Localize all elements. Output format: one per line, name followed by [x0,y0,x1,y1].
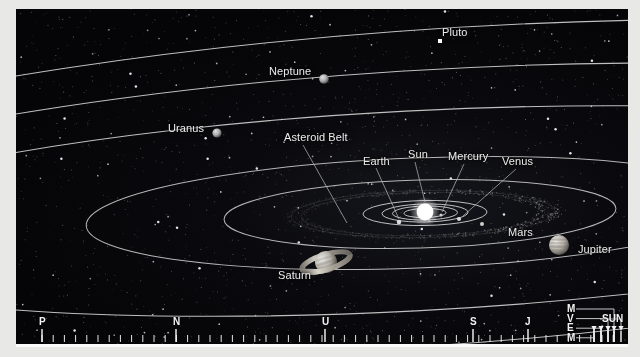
body-jupiter [549,235,569,255]
body-sun [417,204,434,221]
body-neptune [319,74,329,84]
scale-label-sun: SUN [602,314,623,324]
scale-inner-arrow-3 [611,326,616,331]
scale-label-p: P [39,317,46,327]
label-neptune: Neptune [269,66,311,77]
label-saturn: Saturn [278,270,311,281]
scale-label-u: U [322,317,329,327]
label-pluto: Pluto [442,27,468,38]
body-venus [457,217,461,221]
scale-label-j: J [525,317,531,327]
leader-sun [415,162,425,202]
label-mercury: Mercury [448,151,488,162]
scale-label-n: N [173,317,180,327]
body-earth [397,220,402,225]
label-earth: Earth [363,156,390,167]
body-pluto [438,39,442,43]
scale-inner-leader-2 [576,326,601,328]
scale-baseline [16,344,628,347]
jupiter-globe [549,235,569,255]
orbit-diagram [16,9,628,345]
label-jupiter: Jupiter [578,244,612,255]
scale-inner-arrow-4 [618,326,623,331]
label-uranus: Uranus [168,123,204,134]
leader-mercury [442,164,464,212]
giant-orbits [84,145,628,280]
scale-label-s: S [470,317,477,327]
distance-scale: PNUSJMVEMSUN [16,300,628,345]
label-sun: Sun [408,149,428,160]
outer-orbits [16,9,628,345]
orbit-neptune [16,23,628,345]
solar-system-figure: Pluto Neptune Uranus Asteroid Belt Earth… [0,0,640,357]
body-uranus [212,128,221,137]
sky-background: Pluto Neptune Uranus Asteroid Belt Earth… [16,9,628,345]
label-mars: Mars [508,227,533,238]
scale-inner-label-3: M [567,333,575,343]
scale-inner-arrow-2 [605,326,610,331]
label-asteroid-belt: Asteroid Belt [284,132,348,143]
label-venus: Venus [502,156,533,167]
leader-venus [463,169,516,216]
orbit-saturn [84,145,628,280]
orbit-pluto [16,9,628,345]
body-mars [480,222,484,226]
leader-asteroid-belt [303,145,347,223]
